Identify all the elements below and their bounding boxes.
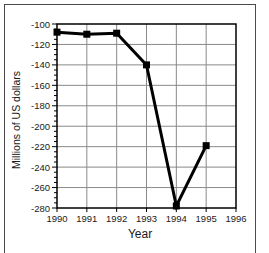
data-point-marker: [83, 31, 90, 38]
y-tick-label: -140: [20, 59, 50, 70]
y-tick-label: -260: [20, 182, 50, 193]
data-point-marker: [203, 142, 210, 149]
y-tick-label: -160: [20, 80, 50, 91]
y-tick-label: -220: [20, 141, 50, 152]
x-tick-label: 1996: [219, 213, 253, 224]
x-axis-title: Year: [128, 227, 152, 241]
y-tick-label: -100: [20, 19, 50, 30]
y-tick-label: -200: [20, 121, 50, 132]
y-tick-label: -240: [20, 162, 50, 173]
chart-figure: Millions of US dollars Year -100-120-140…: [0, 0, 269, 253]
data-series-line: [57, 32, 206, 206]
data-point-marker: [54, 29, 61, 36]
y-tick-label: -180: [20, 100, 50, 111]
data-point-marker: [113, 30, 120, 37]
data-point-marker: [173, 202, 180, 209]
y-tick-label: -120: [20, 39, 50, 50]
y-tick-label: -280: [20, 203, 50, 214]
data-point-marker: [143, 61, 150, 68]
